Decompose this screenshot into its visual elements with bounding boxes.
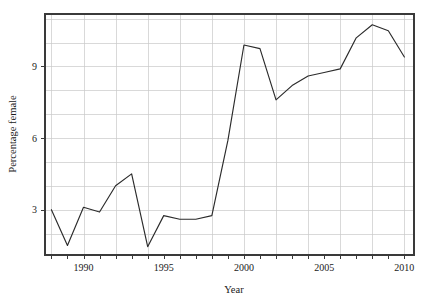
y-axis-tick-labels: 369 — [32, 61, 37, 215]
x-axis-title: Year — [224, 284, 244, 295]
x-tick-label: 2010 — [394, 262, 414, 273]
data-series-line — [51, 25, 404, 247]
line-chart: 19901995200020052010 369 Year Percentage… — [0, 0, 428, 299]
y-tick-label: 3 — [32, 204, 37, 215]
vertical-gridlines — [52, 14, 405, 255]
x-tick-label: 1995 — [154, 262, 174, 273]
x-tick-label: 2005 — [314, 262, 334, 273]
x-tick-label: 2000 — [234, 262, 254, 273]
y-axis-title: Percentage female — [7, 95, 18, 173]
x-axis-tick-marks — [52, 255, 405, 259]
x-tick-label: 1990 — [74, 262, 94, 273]
y-axis-tick-marks — [41, 67, 45, 211]
chart-figure: 19901995200020052010 369 Year Percentage… — [0, 0, 428, 299]
x-axis-tick-labels: 19901995200020052010 — [74, 262, 415, 273]
horizontal-gridlines — [45, 20, 414, 235]
y-tick-label: 9 — [32, 61, 37, 72]
plot-area-border — [45, 14, 414, 255]
y-tick-label: 6 — [32, 133, 37, 144]
